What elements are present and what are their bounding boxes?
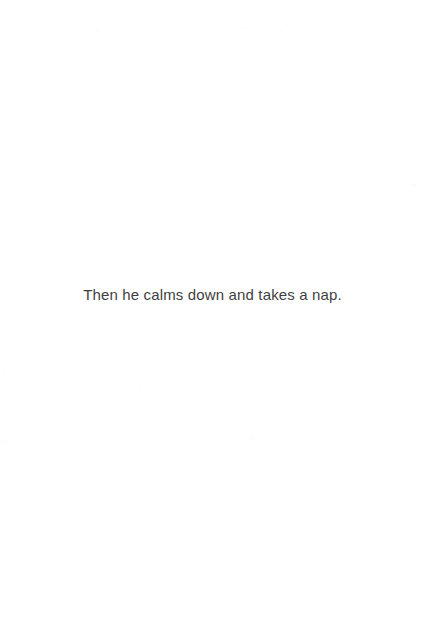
page-text-block: Then he calms down and takes a nap. [0,286,425,304]
scanned-page: Then he calms down and takes a nap. [0,0,425,621]
paper-grain-texture [0,0,425,621]
body-text-line: Then he calms down and takes a nap. [83,287,342,302]
